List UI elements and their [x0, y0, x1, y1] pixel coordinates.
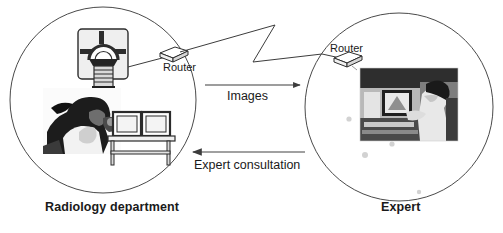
- router-icon-expert: [334, 52, 362, 70]
- diagram-canvas: Radiology department Expert Images Exper…: [0, 0, 503, 233]
- diagram-vector-layer: [0, 0, 503, 233]
- flow-label-images: Images: [227, 89, 268, 103]
- router-icon-radiology: [160, 47, 188, 62]
- scanner-router-cable: [128, 57, 166, 67]
- site-label-expert: Expert: [381, 200, 421, 214]
- reading-workstation-monitors: [108, 112, 175, 165]
- router-label-expert: Router: [330, 42, 363, 54]
- expert-workstation-photo: [360, 68, 458, 141]
- ct-scanner-icon: [78, 29, 128, 90]
- network-link-zigzag: [180, 25, 322, 62]
- flow-label-expert-consultation: Expert consultation: [194, 158, 300, 172]
- radiographer-photo: [43, 88, 121, 154]
- site-label-radiology: Radiology department: [45, 200, 179, 214]
- router-label-radiology: Router: [163, 61, 196, 73]
